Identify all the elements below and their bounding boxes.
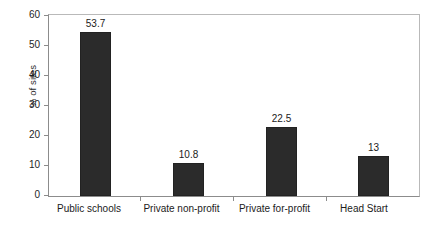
y-tick-label: 20 [0, 129, 40, 140]
x-category-label-private-for-profit: Private for-profit [218, 203, 331, 214]
y-tick-label: 0 [0, 189, 40, 200]
y-tick-label: 40 [0, 69, 40, 80]
bar-chart: % of sites 0 10 20 30 40 50 60 [0, 0, 432, 229]
y-tick-mark [44, 135, 49, 136]
y-tick-mark [44, 45, 49, 46]
x-tick-divider-1 [140, 196, 141, 201]
plot-area: 0 10 20 30 40 50 60 [48, 14, 420, 197]
bar-private-non-profit: 10.8 [173, 163, 204, 196]
bar-value-label: 13 [368, 142, 379, 153]
x-tick-divider-2 [233, 196, 234, 201]
y-axis-title: % of sites [27, 51, 47, 121]
bar-value-label: 22.5 [272, 113, 291, 124]
bar-value-label: 53.7 [86, 18, 105, 29]
y-tick-mark [44, 105, 49, 106]
x-tick-divider-3 [326, 196, 327, 201]
bar-head-start: 13 [358, 156, 389, 196]
y-tick-label: 10 [0, 159, 40, 170]
y-tick-mark [44, 195, 49, 196]
y-tick-mark [44, 165, 49, 166]
y-tick-label: 30 [0, 99, 40, 110]
y-tick-label: 50 [0, 39, 40, 50]
bar-value-label: 10.8 [179, 149, 198, 160]
y-tick-mark [44, 15, 49, 16]
bar-private-for-profit: 22.5 [266, 127, 297, 196]
bar-public-schools: 53.7 [80, 32, 111, 196]
y-tick-label: 60 [0, 9, 40, 20]
x-category-label-head-start: Head Start [318, 203, 410, 214]
y-tick-mark [44, 75, 49, 76]
